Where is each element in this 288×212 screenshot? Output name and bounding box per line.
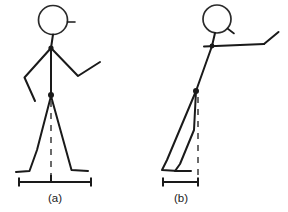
hip-joint-dot-b xyxy=(193,88,199,94)
diagram-canvas: (a) (b) xyxy=(0,0,288,212)
stride-measure-bar-a xyxy=(18,175,92,187)
back-leg-a xyxy=(16,96,51,172)
panel-b: (b) xyxy=(162,5,279,204)
panel-caption-a: (a) xyxy=(48,192,62,204)
front-leg-a xyxy=(51,96,88,171)
nose-line-b xyxy=(228,29,235,34)
stride-measure-bar-b xyxy=(162,178,199,187)
shoulder-joint-dot-b xyxy=(210,44,215,49)
shoulder-joint-dot-a xyxy=(48,45,53,50)
stick-figure-diagram: (a) (b) xyxy=(0,0,288,212)
right-arm-a xyxy=(51,48,100,76)
right-arm-b xyxy=(264,32,279,44)
head-circle-a xyxy=(39,6,68,35)
left-arm-a xyxy=(25,48,52,101)
panel-caption-b: (b) xyxy=(174,192,188,204)
hip-joint-dot-a xyxy=(48,92,54,98)
back-leg-b xyxy=(162,91,196,171)
torso-line-b xyxy=(196,46,212,91)
panel-a: (a) xyxy=(16,6,100,205)
